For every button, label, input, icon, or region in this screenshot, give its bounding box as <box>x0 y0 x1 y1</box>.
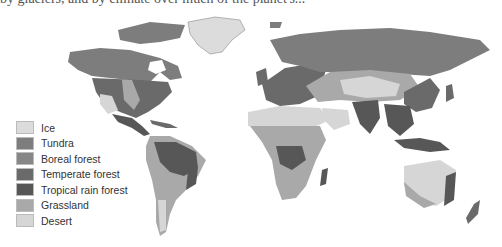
greenland-ice <box>188 17 245 54</box>
swatch-boreal-forest <box>16 152 34 165</box>
legend-label: Temperate forest <box>41 168 120 180</box>
north-america-boreal <box>68 48 182 82</box>
new-zealand <box>466 200 480 224</box>
southeast-asia <box>384 104 414 136</box>
legend-item-desert: Desert <box>16 213 128 229</box>
caribbean-islands <box>150 120 178 128</box>
legend-item-boreal-forest: Boreal forest <box>16 151 128 167</box>
legend-item-temperate-forest: Temperate forest <box>16 167 128 183</box>
madagascar <box>320 168 328 186</box>
swatch-tundra <box>16 137 34 150</box>
iceland <box>270 22 282 28</box>
map-legend: Ice Tundra Boreal forest Temperate fores… <box>16 120 128 229</box>
legend-label: Grassland <box>41 199 89 211</box>
swatch-desert <box>16 214 34 227</box>
legend-label: Tropical rain forest <box>41 184 128 196</box>
legend-label: Boreal forest <box>41 153 101 165</box>
swatch-tropical-rain-forest <box>16 183 34 196</box>
swatch-grassland <box>16 199 34 212</box>
legend-item-tropical-rain-forest: Tropical rain forest <box>16 182 128 198</box>
legend-label: Tundra <box>41 137 74 149</box>
swatch-temperate-forest <box>16 168 34 181</box>
legend-item-tundra: Tundra <box>16 136 128 152</box>
indonesia <box>394 138 450 152</box>
legend-item-ice: Ice <box>16 120 128 136</box>
swatch-ice <box>16 121 34 134</box>
arabia-desert <box>322 108 350 130</box>
legend-item-grassland: Grassland <box>16 198 128 214</box>
legend-label: Desert <box>41 215 72 227</box>
legend-label: Ice <box>41 122 55 134</box>
india-tropical <box>352 100 380 134</box>
arctic-islands <box>118 22 185 44</box>
japan <box>446 84 454 102</box>
